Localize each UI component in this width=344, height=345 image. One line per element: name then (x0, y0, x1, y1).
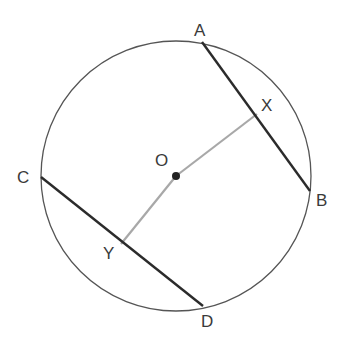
center-point (172, 172, 180, 180)
label-c: C (17, 169, 29, 186)
segment-oy (121, 176, 176, 244)
chord-cd (41, 177, 203, 306)
label-x: X (261, 97, 272, 114)
chord-ab (202, 42, 310, 191)
geometry-diagram: A X O B C Y D (0, 0, 344, 345)
segment-ox (176, 114, 257, 176)
label-d: D (201, 313, 213, 330)
label-a: A (194, 22, 205, 39)
label-b: B (316, 192, 327, 209)
label-o: O (155, 152, 168, 169)
label-y: Y (103, 245, 114, 262)
diagram-canvas (0, 0, 344, 345)
